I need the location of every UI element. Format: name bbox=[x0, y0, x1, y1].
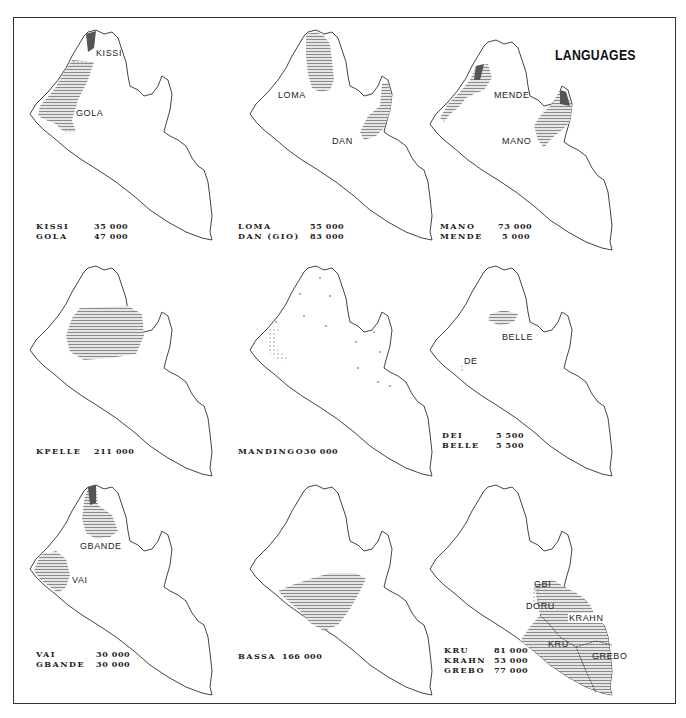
legend-row: DAN (GIO)83 000 bbox=[238, 231, 344, 241]
panel-kissi-gola: KISSI GOLA KISSI35 000 GOLA47 000 bbox=[0, 20, 220, 250]
map-label-doru: DORU bbox=[526, 601, 555, 611]
legend-row: KPELLE211 000 bbox=[36, 446, 134, 456]
legend-row: LOMA55 000 bbox=[238, 221, 344, 231]
map-label-gola: GOLA bbox=[76, 108, 103, 118]
map-label-mende: MENDE bbox=[494, 90, 530, 100]
map-label-loma: LOMA bbox=[278, 90, 306, 100]
legend-row: MANDINGO30 000 bbox=[238, 446, 338, 456]
legend-row: MANO73 000 bbox=[440, 221, 532, 231]
legend: KISSI35 000 GOLA47 000 bbox=[36, 221, 128, 241]
legend-row: DEI5 500 bbox=[442, 430, 524, 440]
legend: DEI5 500 BELLE5 500 bbox=[442, 430, 524, 450]
map-label-vai: VAI bbox=[72, 575, 88, 585]
legend: KPELLE211 000 bbox=[36, 446, 134, 456]
legend: BASSA166 000 bbox=[238, 651, 322, 661]
liberia-map bbox=[0, 475, 220, 705]
legend-row: BELLE5 500 bbox=[442, 440, 524, 450]
legend: MANDINGO30 000 bbox=[238, 446, 338, 456]
map-label-grebo: GREBO bbox=[592, 651, 628, 661]
map-label-dan: DAN bbox=[332, 136, 353, 146]
map-label-de: DE bbox=[464, 356, 478, 366]
legend-row: GBANDE30 000 bbox=[36, 659, 130, 669]
map-label-gbi: GBI bbox=[534, 579, 551, 589]
legend: VAI30 000 GBANDE30 000 bbox=[36, 649, 130, 669]
panel-vai-gbande: GBANDE VAI VAI30 000 GBANDE30 000 bbox=[0, 475, 220, 705]
liberia-map bbox=[220, 20, 440, 250]
liberia-map bbox=[220, 475, 440, 705]
panel-loma-dan: LOMA DAN LOMA55 000 DAN (GIO)83 000 bbox=[220, 20, 440, 250]
panel-kpelle: KPELLE211 000 bbox=[0, 256, 220, 486]
legend: MANO73 000 MENDE5 000 bbox=[440, 221, 532, 241]
legend-row: KRU81 000 bbox=[444, 645, 528, 655]
map-label-krahn: KRAHN bbox=[568, 613, 605, 623]
panel-dei-belle: BELLE DE DEI5 500 BELLE5 500 bbox=[440, 256, 660, 486]
map-label-belle: BELLE bbox=[502, 332, 533, 342]
legend-row: GREBO77 000 bbox=[444, 665, 528, 675]
legend-row: KRAHN53 000 bbox=[444, 655, 528, 665]
panel-mandingo: MANDINGO30 000 bbox=[220, 256, 440, 486]
panel-kru-krahn-grebo: GBI DORU KRAHN KRU GREBO KRU81 000 KRAHN… bbox=[440, 475, 660, 705]
map-label-gbande: GBANDE bbox=[80, 541, 122, 551]
liberia-map bbox=[440, 256, 660, 486]
legend: LOMA55 000 DAN (GIO)83 000 bbox=[238, 221, 344, 241]
legend-row: KISSI35 000 bbox=[36, 221, 128, 231]
panel-bassa: BASSA166 000 bbox=[220, 475, 440, 705]
legend-row: GOLA47 000 bbox=[36, 231, 128, 241]
map-label-kru: KRU bbox=[548, 639, 569, 649]
legend-row: BASSA166 000 bbox=[238, 651, 322, 661]
liberia-map bbox=[440, 20, 660, 250]
legend: KRU81 000 KRAHN53 000 GREBO77 000 bbox=[444, 645, 528, 675]
map-label-kissi: KISSI bbox=[96, 48, 122, 58]
map-label-mano: MANO bbox=[502, 136, 531, 146]
panel-mano-mende: MENDE MANO MANO73 000 MENDE5 000 bbox=[440, 20, 660, 250]
legend-row: VAI30 000 bbox=[36, 649, 130, 659]
legend-row: MENDE5 000 bbox=[440, 231, 532, 241]
